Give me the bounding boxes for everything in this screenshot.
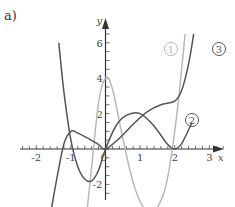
curve-label-c2: 2 — [189, 115, 195, 126]
curve-label-c3: 3 — [216, 44, 222, 55]
function-graph: a) -2-10123642-2xy 132 — [0, 0, 235, 207]
x-tick-label: 2 — [172, 152, 178, 163]
y-arrow-icon — [102, 18, 109, 29]
x-tick-label: -2 — [31, 152, 41, 163]
curve-labels: 132 — [165, 43, 226, 127]
x-tick-label: 3 — [206, 152, 212, 163]
y-axis-label: y — [96, 15, 103, 26]
y-tick-label: 4 — [97, 73, 103, 84]
curve-3 — [50, 34, 194, 207]
panel-label: a) — [4, 8, 17, 23]
y-tick-label: -2 — [93, 179, 103, 190]
x-axis-label: x — [218, 152, 224, 163]
x-tick-label: 1 — [137, 152, 143, 163]
axes: -2-10123642-2xy — [20, 15, 224, 200]
curves — [50, 34, 194, 207]
curve-label-c1: 1 — [168, 44, 174, 55]
y-tick-label: 6 — [97, 38, 103, 49]
